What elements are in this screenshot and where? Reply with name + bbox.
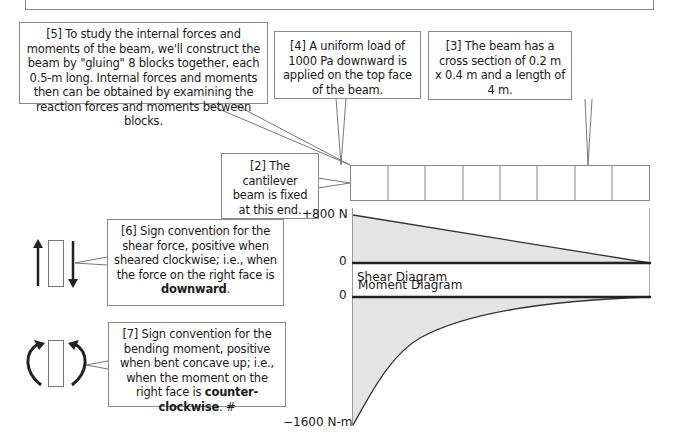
note-6-bold: downward — [161, 282, 227, 296]
beam — [351, 165, 650, 201]
note-6-text: [6] Sign convention for the shear force,… — [114, 224, 277, 282]
note-3-text: [3] The beam has a cross section of 0.2 … — [435, 39, 565, 97]
moment-min-label: −1600 N-m — [283, 415, 352, 429]
moment-sign-icon — [28, 340, 85, 387]
note3-pointer — [585, 99, 592, 165]
shear-zero-label: 0 — [339, 254, 347, 268]
moment-title: Moment Diagram — [358, 278, 462, 292]
note-5: [5] To study the internal forces and mom… — [19, 22, 268, 104]
shear-max-label: +800 N — [302, 207, 348, 221]
note-6-tail: . — [227, 282, 230, 296]
note6-pointer — [75, 257, 107, 265]
note2-pointer — [318, 178, 350, 188]
moment-area — [353, 297, 650, 425]
note7-pointer — [86, 361, 108, 369]
note-7: [7] Sign convention for the bending mome… — [108, 322, 286, 407]
shear-sign-icon — [33, 239, 78, 288]
note-2-text: [2] The cantilever beam is fixed at this… — [233, 159, 308, 217]
note-5-text: [5] To study the internal forces and mom… — [27, 27, 260, 128]
note4-pointer — [336, 98, 346, 165]
moment-zero-label: 0 — [339, 288, 347, 302]
note-3: [3] The beam has a cross section of 0.2 … — [428, 31, 572, 100]
note-7-tail: . # — [219, 400, 235, 414]
note-4-text: [4] A uniform load of 1000 Pa downward i… — [283, 39, 412, 97]
note-6: [6] Sign convention for the shear force,… — [107, 219, 284, 306]
note-4: [4] A uniform load of 1000 Pa downward i… — [274, 31, 421, 99]
